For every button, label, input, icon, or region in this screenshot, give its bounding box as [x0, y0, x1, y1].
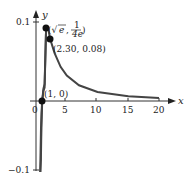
max-point-label: (√ e , 1 4e ): [48, 20, 86, 39]
svg-text:e: e: [59, 25, 64, 35]
x-axis-label: x: [178, 95, 184, 106]
function-graph: x y 0 5 10 15 20 0.1 −0.1 (√ e , 1 4e ) …: [0, 0, 191, 188]
inflection-point-marker: [47, 36, 54, 43]
y-tick-label-neg: −0.1: [8, 165, 30, 175]
y-tick-label-pos: 0.1: [16, 17, 30, 27]
tick-label-20: 20: [153, 105, 165, 115]
svg-text:(√: (√: [48, 25, 58, 35]
tick-label-5: 5: [62, 105, 68, 115]
y-axis-arrow-icon: [33, 10, 39, 18]
inflection-point-label: (2.30, 0.08): [53, 44, 106, 54]
svg-text:): ): [82, 25, 86, 35]
x-axis-arrow-icon: [168, 98, 176, 104]
tick-label-0: 0: [32, 105, 38, 115]
tick-label-10: 10: [90, 105, 102, 115]
svg-text:,: ,: [66, 25, 69, 35]
y-axis-label: y: [41, 9, 48, 20]
zero-point-label: (1, 0): [44, 89, 68, 99]
tick-label-15: 15: [122, 105, 134, 115]
